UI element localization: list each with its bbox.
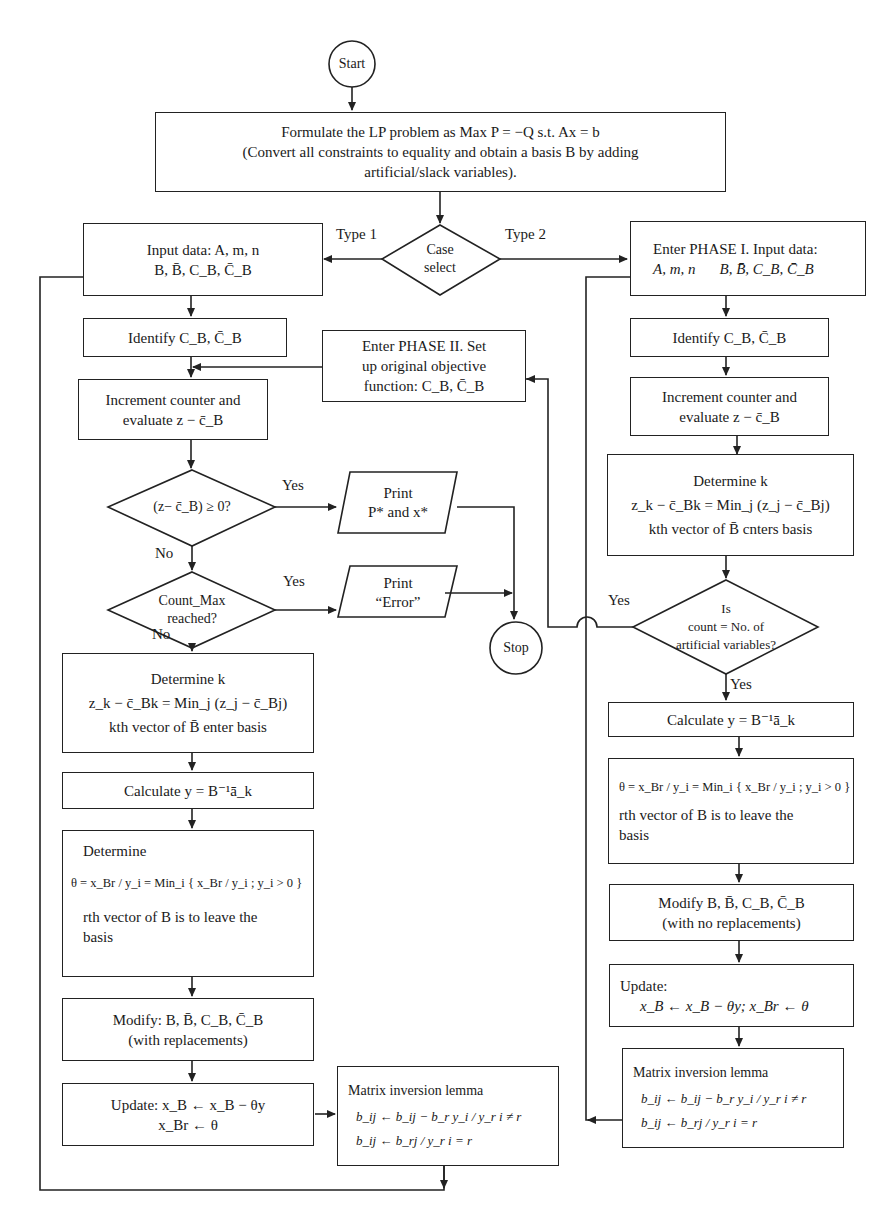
increment-right-line-1: Increment counter and <box>631 387 828 407</box>
phase1-box: Enter PHASE I. Input data: A, m, n B, B̄… <box>630 221 866 296</box>
print-result-line-2: P* and x* <box>345 503 451 522</box>
update-left-line-1: Update: x_B ← x_B − θy <box>63 1095 313 1115</box>
countmax-decision: Count_Max reached? <box>130 592 254 628</box>
matrix-lemma-box-right: Matrix inversion lemma b_ij ← b_ij − b_r… <box>622 1048 844 1148</box>
calculate-box-left: Calculate y = B⁻¹ā_k <box>62 772 314 809</box>
print-error-line-1: Print <box>345 574 451 593</box>
countmax-line-2: reached? <box>130 610 254 628</box>
artificial-line-2: count = No. of <box>656 618 796 636</box>
calculate-left-label: Calculate y = B⁻¹ā_k <box>63 781 313 801</box>
phase2-line-1: Enter PHASE II. Set <box>323 336 525 356</box>
phase1-line-1: Enter PHASE I. Input data: <box>653 239 818 259</box>
theta-box-right: θ = x_Br / y_i = Min_i { x_Br / y_i ; y_… <box>608 758 854 864</box>
theta-right-line-2: rth vector of B is to leave the <box>619 805 853 825</box>
optimality-decision: (z− c̄_B) ≥ 0? <box>120 498 264 516</box>
countmax-line-1: Count_Max <box>130 592 254 610</box>
optimality-decision-label: (z− c̄_B) ≥ 0? <box>153 499 230 514</box>
determine-k-left-line-1: Determine k <box>63 669 313 689</box>
print-result-output: Print P* and x* <box>345 484 451 522</box>
determine-k-left-line-3: kth vector of B̄ enter basis <box>63 717 313 737</box>
determine-k-right-line-1: Determine k <box>608 471 853 491</box>
artificial-yes-down-label: Yes <box>730 676 752 693</box>
increment-right-line-2: evaluate z − c̄_B <box>631 407 828 427</box>
input-data-line-2: B, B̄, C_B, C̄_B <box>84 260 322 280</box>
artificial-line-3: artificial variables? <box>656 636 796 654</box>
start-label: Start <box>339 56 365 71</box>
increment-left-line-2: evaluate z − c̄_B <box>79 410 267 430</box>
modify-right-line-1: Modify B, B̄, C_B, C̄_B <box>610 893 853 913</box>
phase2-line-3: function: C_B, C̄_B <box>323 376 525 396</box>
determine-k-box-left: Determine k z_k − c̄_Bk = Min_j (z_j − c… <box>62 653 314 753</box>
countmax-yes-label: Yes <box>283 573 305 590</box>
modify-box-right: Modify B, B̄, C_B, C̄_B (with no replace… <box>609 884 854 941</box>
identify-box-left: Identify C_B, C̄_B <box>83 318 287 357</box>
artificial-yes-left-label: Yes <box>608 592 630 609</box>
update-box-right: Update: x_B ← x_B − θy; x_Br ← θ <box>609 964 854 1027</box>
determine-theta-line-2: θ = x_Br / y_i = Min_i { x_Br / y_i ; y_… <box>71 873 313 893</box>
artificial-decision: Is count = No. of artificial variables? <box>656 600 796 654</box>
input-data-box: Input data: A, m, n B, B̄, C_B, C̄_B <box>83 223 323 296</box>
matrix-lemma-left-row-1: b_ij ← b_ij − b_r y_i / y_r i ≠ r <box>348 1107 558 1127</box>
input-data-line-1: Input data: A, m, n <box>84 240 322 260</box>
formulate-problem-box: Formulate the LP problem as Max P = −Q s… <box>155 112 726 192</box>
stop-terminal: Stop <box>490 639 542 657</box>
update-left-line-2: x_Br ← θ <box>63 1115 313 1135</box>
matrix-lemma-right-row-1: b_ij ← b_ij − b_r y_i / y_r i ≠ r <box>633 1089 843 1109</box>
determine-theta-line-1: Determine <box>73 841 313 861</box>
print-result-line-1: Print <box>345 484 451 503</box>
calculate-box-right: Calculate y = B⁻¹ā_k <box>608 702 854 737</box>
modify-left-line-1: Modify: B, B̄, C_B, C̄_B <box>63 1010 313 1030</box>
optimal-no-label: No <box>155 545 173 562</box>
phase1-line-2a: A, m, n <box>653 259 696 279</box>
modify-right-line-2: (with no replacements) <box>610 913 853 933</box>
formulate-line-3: artificial/slack variables). <box>156 162 725 182</box>
matrix-lemma-right-title: Matrix inversion lemma <box>633 1063 843 1083</box>
artificial-line-1: Is <box>656 600 796 618</box>
case-select-line-2: select <box>400 259 480 277</box>
modify-left-line-2: (with replacements) <box>63 1030 313 1050</box>
case-select-line-1: Case <box>400 241 480 259</box>
matrix-lemma-left-row-2: b_ij ← b_rj / y_r i = r <box>348 1131 558 1151</box>
stop-label: Stop <box>503 640 529 655</box>
update-right-line-1: Update: <box>620 976 853 996</box>
type1-label: Type 1 <box>336 226 377 243</box>
calculate-right-label: Calculate y = B⁻¹ā_k <box>609 710 853 730</box>
increment-box-left: Increment counter and evaluate z − c̄_B <box>78 379 268 440</box>
update-box-left: Update: x_B ← x_B − θy x_Br ← θ <box>62 1083 314 1146</box>
matrix-lemma-left-title: Matrix inversion lemma <box>348 1081 558 1101</box>
identify-right-label: Identify C_B, C̄_B <box>631 328 828 348</box>
matrix-lemma-right-row-2: b_ij ← b_rj / y_r i = r <box>633 1113 843 1133</box>
print-error-output: Print “Error” <box>345 574 451 612</box>
identify-left-label: Identify C_B, C̄_B <box>84 328 286 348</box>
increment-box-right: Increment counter and evaluate z − c̄_B <box>630 377 829 436</box>
optimal-yes-label: Yes <box>282 477 304 494</box>
print-error-line-2: “Error” <box>345 593 451 612</box>
countmax-no-label: No <box>152 626 170 643</box>
increment-left-line-1: Increment counter and <box>79 390 267 410</box>
phase2-box: Enter PHASE II. Set up original objectiv… <box>322 330 526 402</box>
identify-box-right: Identify C_B, C̄_B <box>630 318 829 357</box>
determine-k-box-right: Determine k z_k − c̄_Bk = Min_j (z_j − c… <box>607 454 854 556</box>
determine-k-right-line-3: kth vector of B̄ cnters basis <box>608 519 853 539</box>
determine-k-right-line-2: z_k − c̄_Bk = Min_j (z_j − c̄_Bj) <box>608 495 853 515</box>
formulate-line-1: Formulate the LP problem as Max P = −Q s… <box>156 122 725 142</box>
matrix-lemma-box-left: Matrix inversion lemma b_ij ← b_ij − b_r… <box>337 1066 559 1166</box>
modify-box-left: Modify: B, B̄, C_B, C̄_B (with replaceme… <box>62 998 314 1061</box>
phase2-line-2: up original objective <box>323 356 525 376</box>
update-right-line-2: x_B ← x_B − θy; x_Br ← θ <box>620 996 853 1016</box>
phase1-line-2b: B, B̄, C_B, C̄_B <box>720 259 814 279</box>
determine-theta-line-3: rth vector of B is to leave the <box>73 907 313 927</box>
start-terminal: Start <box>329 55 375 73</box>
case-select-decision: Case select <box>400 241 480 277</box>
theta-right-line-3: basis <box>619 825 853 845</box>
theta-right-line-1: θ = x_Br / y_i = Min_i { x_Br / y_i ; y_… <box>619 777 853 797</box>
type2-label: Type 2 <box>505 226 546 243</box>
determine-k-left-line-2: z_k − c̄_Bk = Min_j (z_j − c̄_Bj) <box>63 693 313 713</box>
determine-theta-box-left: Determine θ = x_Br / y_i = Min_i { x_Br … <box>62 830 314 977</box>
formulate-line-2: (Convert all constraints to equality and… <box>156 142 725 162</box>
determine-theta-line-4: basis <box>73 927 313 947</box>
